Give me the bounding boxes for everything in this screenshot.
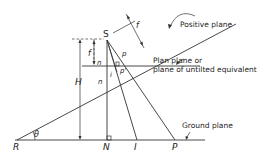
point-label-p-lower: p' (119, 67, 126, 75)
plan-plane-label-line2: plane of untilted equivalent (153, 65, 257, 74)
arrowhead-icon (79, 136, 82, 140)
focal-extension-line (113, 21, 135, 33)
point-label-s: S (103, 29, 109, 39)
point-label-p-upper: p (121, 50, 127, 58)
point-label-p: P (172, 142, 178, 152)
point-label-n-upper: n (97, 59, 101, 67)
point-label-i: I (134, 142, 137, 152)
ground-plane-label: Ground plane (182, 121, 233, 130)
point-label-i: i (110, 71, 112, 79)
arrowhead-icon (79, 39, 82, 43)
right-angle-marker (107, 136, 111, 140)
focal-label-left: f (88, 49, 92, 58)
plan-plane-label-line1: Plan plane or (153, 56, 203, 65)
arrowhead-icon (186, 136, 189, 140)
height-label: H (75, 77, 82, 87)
positive-plane-label: Positive plane (180, 20, 232, 29)
ground-plane-leader (187, 132, 190, 137)
tilt-geometry-diagram: S R N I P p p' n i n f f H θ Positive pl… (0, 0, 273, 159)
arrowhead-icon (93, 40, 96, 44)
ray-s-perp (107, 40, 117, 72)
right-angle-marker (116, 62, 119, 66)
point-label-r: R (13, 142, 19, 152)
point-label-n: N (103, 142, 110, 152)
angle-label: θ (34, 130, 39, 139)
focal-label-tilted: f (136, 21, 140, 30)
arrowhead-icon (93, 61, 96, 65)
point-label-n-lower: n (98, 78, 102, 86)
arrowhead-icon (127, 15, 130, 20)
arrowhead-icon (140, 42, 143, 47)
ray-s-p (107, 40, 175, 140)
